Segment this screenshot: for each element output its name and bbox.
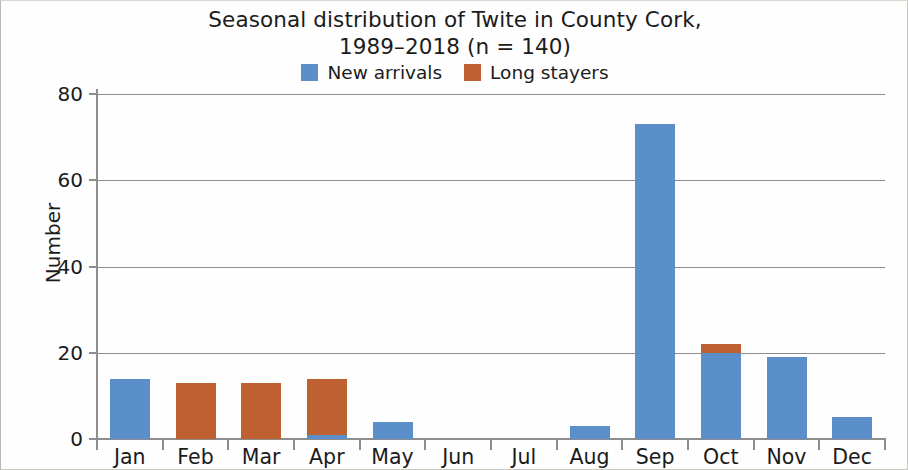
x-axis-tick-label: Dec <box>812 445 892 469</box>
chart-figure: Seasonal distribution of Twite in County… <box>0 0 908 470</box>
x-axis-tick-labels: JanFebMarAprMayJunJulAugSepOctNovDec <box>1 1 908 470</box>
